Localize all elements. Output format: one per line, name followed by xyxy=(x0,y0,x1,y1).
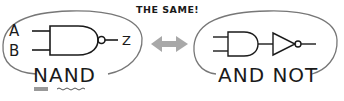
and-gate-icon xyxy=(213,32,273,56)
title-the-same: THE SAME! xyxy=(136,4,199,15)
input-a-label: A xyxy=(9,22,19,40)
and-squiggle-mark xyxy=(57,88,85,90)
and-not-label: AND NOT xyxy=(218,63,318,87)
double-arrow-icon xyxy=(151,36,188,52)
input-b-label: B xyxy=(9,42,19,60)
nand-label: NAND xyxy=(33,63,96,87)
nand-gate-icon xyxy=(32,26,118,55)
n-highlight-mark xyxy=(34,87,48,91)
not-gate-icon xyxy=(273,33,316,55)
output-z-label: Z xyxy=(122,33,131,48)
